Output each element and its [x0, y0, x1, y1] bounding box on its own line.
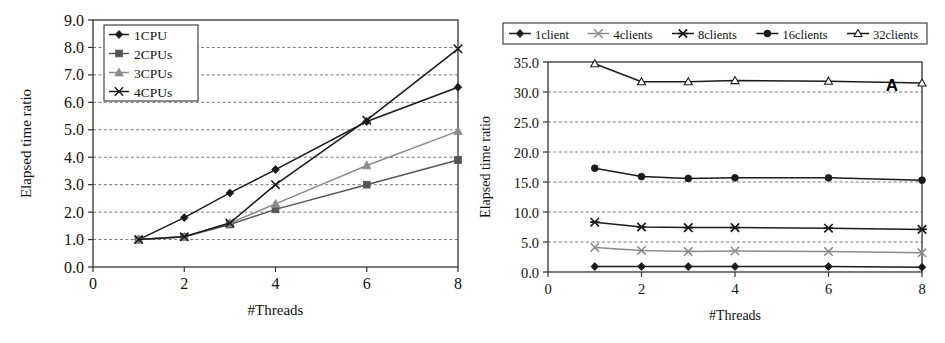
chart-left-cpus: 0.01.02.03.04.05.06.07.08.09.002468#Thre… [0, 0, 470, 343]
plot-frame [548, 62, 922, 272]
legend-label-8clients: 8clients [698, 28, 737, 42]
legend-label-3CPUs: 3CPUs [134, 66, 172, 81]
legend-label-16clients: 16clients [782, 28, 827, 42]
legend: 1client4clients8clients16clients32client… [503, 23, 927, 44]
x-axis-title: #Threads [248, 302, 304, 318]
y-axis-title: Elapsed time ratio [478, 116, 493, 218]
legend-marker [116, 50, 123, 57]
x-tick-label: 8 [454, 275, 462, 292]
series-marker [455, 157, 462, 164]
y-tick-label: 10.0 [514, 205, 539, 221]
series-1client [591, 263, 926, 272]
x-tick-label: 4 [731, 281, 739, 297]
series-marker [590, 218, 600, 226]
x-tick-label: 8 [918, 281, 925, 297]
series-16clients [591, 165, 925, 184]
legend-label-1CPU: 1CPU [134, 28, 167, 43]
series-8clients [590, 218, 927, 234]
series-marker [591, 60, 599, 67]
series-32clients [591, 60, 926, 86]
y-tick-label: 30.0 [514, 85, 539, 101]
y-axis-title: Elapsed time ratio [18, 89, 34, 198]
y-tick-label: 3.0 [64, 176, 84, 193]
series-marker [591, 263, 599, 271]
series-marker [591, 165, 598, 172]
y-tick-label: 25.0 [514, 115, 539, 131]
x-axis-title: #Threads [709, 308, 761, 323]
series-marker [825, 263, 833, 271]
y-tick-label: 2.0 [64, 204, 84, 221]
x-tick-label: 2 [180, 275, 188, 292]
y-tick-label: 1.0 [64, 231, 84, 248]
figure-root: 0.01.02.03.04.05.06.07.08.09.002468#Thre… [0, 0, 945, 343]
series-marker [824, 224, 834, 232]
y-tick-label: 9.0 [64, 12, 84, 29]
series-4clients [591, 243, 927, 257]
series-marker [919, 177, 926, 184]
series-marker [638, 173, 645, 180]
legend-label-4CPUs: 4CPUs [134, 85, 172, 100]
series-marker [918, 263, 926, 271]
series-marker [825, 174, 832, 181]
x-tick-label: 2 [638, 281, 645, 297]
legend-marker [764, 30, 771, 37]
chart-right-canvas: 0.05.010.015.020.025.030.035.002468#Thre… [470, 0, 945, 343]
y-tick-label: 6.0 [64, 94, 84, 111]
y-tick-label: 5.0 [64, 121, 84, 138]
annotation-label-a: A [886, 76, 898, 95]
series-line [139, 131, 458, 239]
series-marker [454, 127, 462, 135]
y-tick-label: 15.0 [514, 175, 539, 191]
series-marker [454, 83, 462, 91]
y-tick-label: 0.0 [64, 259, 84, 276]
x-tick-label: 0 [544, 281, 551, 297]
series-line [139, 160, 458, 240]
series-marker [638, 263, 646, 271]
legend-label-2CPUs: 2CPUs [134, 47, 172, 62]
series-marker [363, 181, 370, 188]
series-marker [226, 189, 234, 197]
series-marker [685, 175, 692, 182]
x-tick-label: 6 [825, 281, 832, 297]
chart-right-clients: 0.05.010.015.020.025.030.035.002468#Thre… [470, 0, 945, 343]
y-tick-label: 0.0 [521, 265, 539, 281]
y-tick-label: 5.0 [521, 235, 539, 251]
chart-left-canvas: 0.01.02.03.04.05.06.07.08.09.002468#Thre… [0, 0, 470, 343]
series-marker [683, 223, 693, 231]
series-2CPUs [135, 157, 461, 243]
legend-label-32clients: 32clients [873, 28, 918, 42]
x-tick-label: 0 [89, 275, 97, 292]
x-tick-label: 4 [272, 275, 280, 292]
series-marker [732, 174, 739, 181]
legend: 1CPU2CPUs3CPUs4CPUs [104, 25, 198, 101]
series-1CPU [135, 83, 462, 243]
y-tick-label: 35.0 [514, 55, 539, 71]
y-tick-label: 7.0 [64, 66, 84, 83]
y-tick-label: 4.0 [64, 149, 84, 166]
legend-label-1client: 1client [535, 28, 570, 42]
series-marker [731, 263, 739, 271]
series-marker [637, 223, 647, 231]
series-line [595, 64, 922, 83]
legend-label-4clients: 4clients [613, 28, 652, 42]
x-tick-label: 6 [363, 275, 371, 292]
series-marker [272, 166, 280, 174]
series-marker [684, 263, 692, 271]
series-marker [180, 214, 188, 222]
series-marker [730, 223, 740, 231]
y-tick-label: 20.0 [514, 145, 539, 161]
y-tick-label: 8.0 [64, 39, 84, 56]
